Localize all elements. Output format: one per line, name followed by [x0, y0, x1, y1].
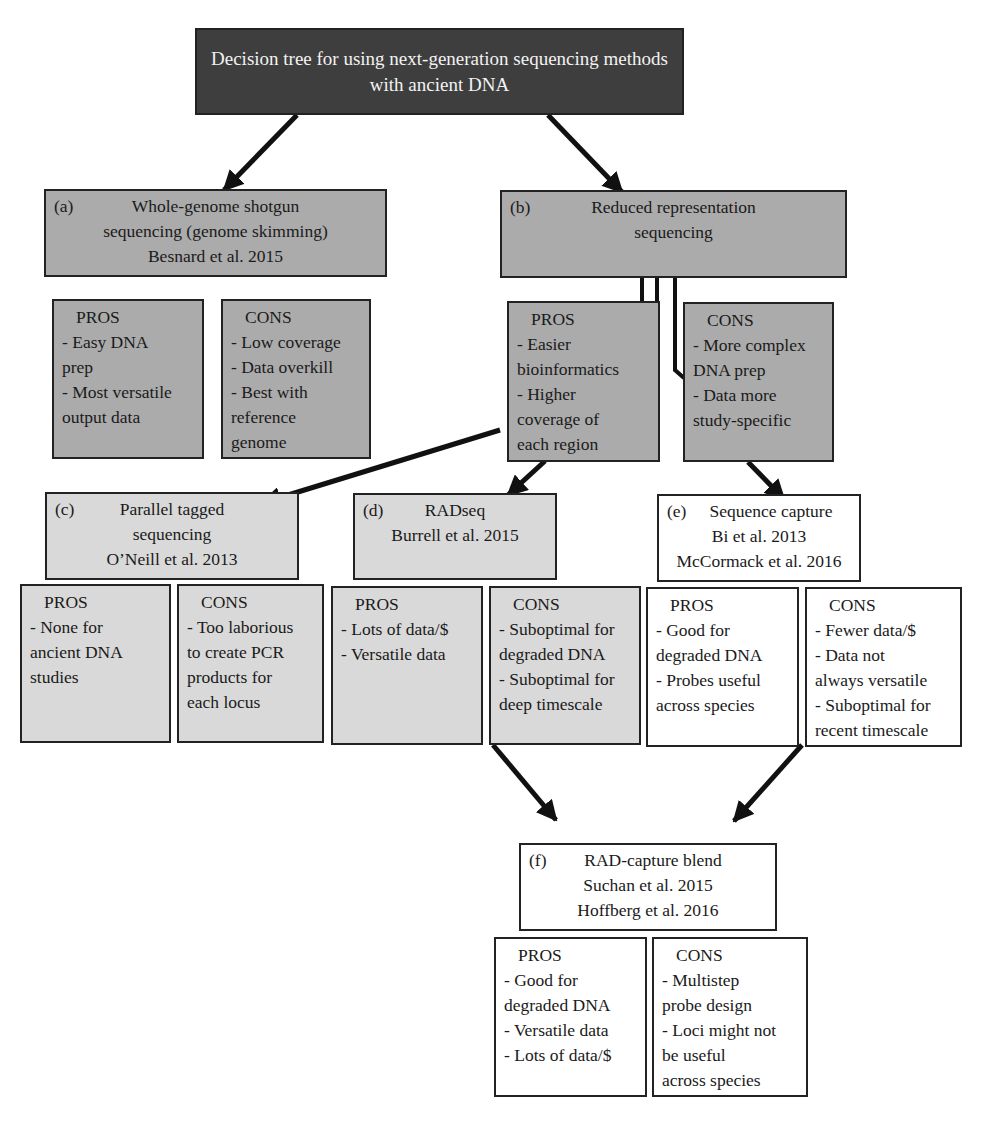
cons-item: be useful — [662, 1043, 802, 1068]
pros-item: degraded DNA — [656, 643, 793, 668]
node-f-line-2: Suchan et al. 2015 — [521, 873, 775, 898]
node-f-line-1: RAD-capture blend — [521, 848, 775, 873]
node-d-line-2: Burrell et al. 2015 — [355, 523, 555, 548]
cons-item: - Data not — [815, 643, 956, 668]
node-f-cons: CONS - Multistep probe design - Loci mig… — [652, 937, 808, 1097]
arrow-e-to-f — [734, 745, 802, 821]
cons-heading: CONS — [231, 305, 365, 330]
arrow-b-pros-to-d — [508, 461, 545, 495]
cons-heading: CONS — [187, 590, 318, 615]
cons-item: probe design — [662, 993, 802, 1018]
title-box: Decision tree for using next-generation … — [195, 28, 684, 115]
pros-item: degraded DNA — [504, 993, 641, 1018]
node-b-reduced-representation: (b) Reduced representation sequencing — [500, 190, 847, 278]
pros-item: - Lots of data/$ — [341, 617, 477, 642]
cons-item: - Fewer data/$ — [815, 618, 956, 643]
pros-item: studies — [30, 665, 165, 690]
pros-item: - Versatile data — [504, 1018, 641, 1043]
arrow-root-to-b — [548, 115, 622, 192]
node-b-cons: CONS - More complex DNA prep - Data more… — [683, 302, 834, 462]
title-line-2: with ancient DNA — [370, 74, 509, 95]
node-e-sequence-capture: (e) Sequence capture Bi et al. 2013 McCo… — [657, 494, 861, 582]
pros-item: - Good for — [656, 618, 793, 643]
node-c-cons: CONS - Too laborious to create PCR produ… — [177, 584, 324, 743]
cons-item: always versatile — [815, 668, 956, 693]
node-d-cons: CONS - Suboptimal for degraded DNA - Sub… — [489, 586, 641, 745]
node-b-line-2: sequencing — [502, 220, 845, 245]
cons-item: - More complex — [693, 333, 828, 358]
node-a-whole-genome-shotgun: (a) Whole-genome shotgun sequencing (gen… — [44, 189, 387, 277]
cons-item: deep timescale — [499, 692, 635, 717]
node-d-line-1: RADseq — [355, 498, 555, 523]
node-c-pros: PROS - None for ancient DNA studies — [20, 584, 171, 743]
pros-heading: PROS — [517, 307, 654, 332]
pros-item: each region — [517, 432, 654, 457]
pros-item: - Versatile data — [341, 642, 477, 667]
node-f-rad-capture-blend: (f) RAD-capture blend Suchan et al. 2015… — [519, 843, 777, 931]
cons-item: reference — [231, 405, 365, 430]
pros-item: across species — [656, 693, 793, 718]
cons-item: - Suboptimal for — [815, 693, 956, 718]
node-b-pros: PROS - Easier bioinformatics - Higher co… — [507, 301, 660, 462]
node-e-line-1: Sequence capture — [659, 499, 859, 524]
node-c-line-1: Parallel tagged — [47, 497, 297, 522]
pros-heading: PROS — [62, 305, 198, 330]
cons-item: - Too laborious — [187, 615, 318, 640]
pros-item: - Probes useful — [656, 668, 793, 693]
pros-item: - Higher — [517, 382, 654, 407]
cons-heading: CONS — [662, 943, 802, 968]
pros-heading: PROS — [341, 592, 477, 617]
node-e-cons: CONS - Fewer data/$ - Data not always ve… — [805, 587, 962, 747]
node-c-line-3: O’Neill et al. 2013 — [47, 547, 297, 572]
pros-item: ancient DNA — [30, 640, 165, 665]
cons-heading: CONS — [499, 592, 635, 617]
node-a-pros: PROS - Easy DNA prep - Most versatile ou… — [52, 299, 204, 459]
pros-item: - Easy DNA — [62, 330, 198, 355]
node-f-label: (f) — [529, 848, 546, 873]
node-e-line-2: Bi et al. 2013 — [659, 524, 859, 549]
cons-item: each locus — [187, 690, 318, 715]
cons-item: recent timescale — [815, 718, 956, 743]
cons-item: study-specific — [693, 408, 828, 433]
node-e-label: (e) — [667, 499, 686, 524]
arrow-root-to-a — [224, 115, 297, 190]
pros-item: output data — [62, 405, 198, 430]
pros-item: - Good for — [504, 968, 641, 993]
node-a-cons: CONS - Low coverage - Data overkill - Be… — [221, 299, 371, 459]
cons-item: degraded DNA — [499, 642, 635, 667]
node-f-pros: PROS - Good for degraded DNA - Versatile… — [494, 937, 647, 1097]
cons-item: - Data overkill — [231, 355, 365, 380]
cons-item: products for — [187, 665, 318, 690]
cons-item: to create PCR — [187, 640, 318, 665]
cons-item: DNA prep — [693, 358, 828, 383]
cons-item: - Best with — [231, 380, 365, 405]
pros-item: prep — [62, 355, 198, 380]
node-e-line-3: McCormack et al. 2016 — [659, 549, 859, 574]
cons-heading: CONS — [693, 308, 828, 333]
node-c-label: (c) — [55, 497, 74, 522]
node-a-line-1: Whole-genome shotgun — [46, 194, 385, 219]
pros-item: - Lots of data/$ — [504, 1043, 641, 1068]
cons-item: - Data more — [693, 383, 828, 408]
node-e-pros: PROS - Good for degraded DNA - Probes us… — [646, 587, 799, 747]
node-c-parallel-tagged: (c) Parallel tagged sequencing O’Neill e… — [45, 492, 299, 580]
pros-heading: PROS — [504, 943, 641, 968]
node-a-line-3: Besnard et al. 2015 — [46, 244, 385, 269]
node-c-line-2: sequencing — [47, 522, 297, 547]
node-f-line-3: Hoffberg et al. 2016 — [521, 898, 775, 923]
node-d-pros: PROS - Lots of data/$ - Versatile data — [331, 586, 483, 745]
cons-item: across species — [662, 1068, 802, 1093]
cons-heading: CONS — [815, 593, 956, 618]
pros-heading: PROS — [656, 593, 793, 618]
node-b-line-1: Reduced representation — [502, 195, 845, 220]
cons-item: - Suboptimal for — [499, 667, 635, 692]
node-a-line-2: sequencing (genome skimming) — [46, 219, 385, 244]
node-d-label: (d) — [363, 498, 383, 523]
node-d-radseq: (d) RADseq Burrell et al. 2015 — [353, 493, 557, 580]
title-line-1: Decision tree for using next-generation … — [211, 48, 668, 69]
pros-item: - Easier — [517, 332, 654, 357]
cons-item: - Suboptimal for — [499, 617, 635, 642]
node-a-label: (a) — [54, 194, 73, 219]
pros-item: - Most versatile — [62, 380, 198, 405]
cons-item: - Multistep — [662, 968, 802, 993]
